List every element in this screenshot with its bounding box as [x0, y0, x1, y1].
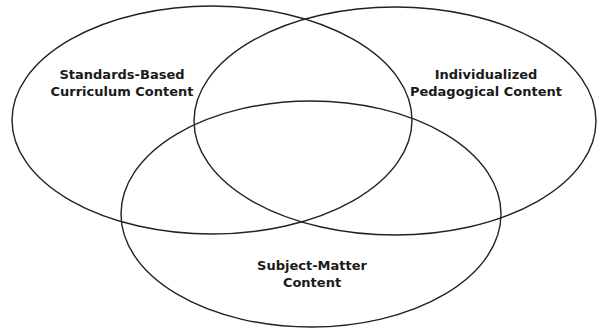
label-line: Pedagogical Content [410, 83, 562, 100]
label-line: Content [257, 274, 367, 291]
label-line: Curriculum Content [50, 83, 193, 100]
label-line: Standards-Based [50, 66, 193, 83]
subject-matter-ellipse [121, 101, 501, 327]
label-line: Individualized [410, 66, 562, 83]
label-line: Subject-Matter [257, 257, 367, 274]
individualized-pedagogical-ellipse [194, 7, 596, 235]
standards-based-curriculum-ellipse [12, 6, 412, 234]
individualized-pedagogical-label: Individualized Pedagogical Content [410, 66, 562, 100]
subject-matter-label: Subject-Matter Content [257, 257, 367, 291]
standards-based-curriculum-label: Standards-Based Curriculum Content [50, 66, 193, 100]
